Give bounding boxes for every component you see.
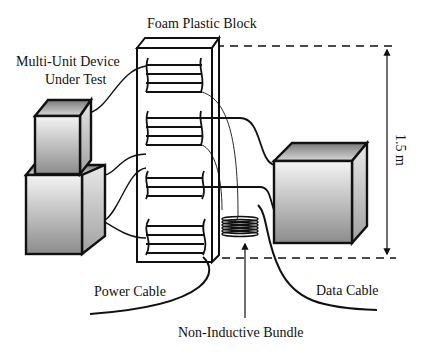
- device-under-test-bottom-unit: [26, 165, 105, 254]
- device-label-line2: Under Test: [45, 72, 106, 87]
- non-inductive-bundle: [222, 217, 258, 237]
- peripheral-device: [274, 143, 367, 243]
- foam-block-label: Foam Plastic Block: [147, 16, 257, 31]
- bundle-label: Non-Inductive Bundle: [178, 325, 304, 340]
- device-label-line1: Multi-Unit Device: [16, 54, 120, 69]
- power-cable-label: Power Cable: [94, 284, 166, 299]
- foam-plastic-block: [137, 38, 219, 262]
- height-label: 1.5 m: [393, 134, 408, 166]
- device-under-test-top-unit: [35, 100, 91, 174]
- data-cable-label: Data Cable: [316, 283, 379, 298]
- test-setup-diagram: 1.5 m: [0, 0, 422, 357]
